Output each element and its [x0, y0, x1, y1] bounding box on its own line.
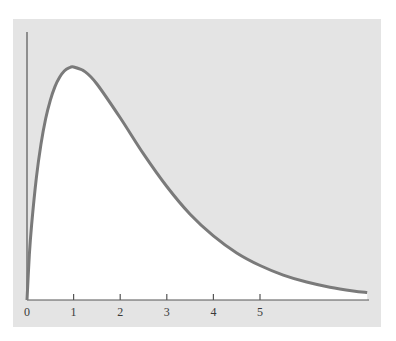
x-tick-label: 1 — [71, 305, 77, 319]
x-tick-label: 0 — [24, 305, 30, 319]
x-tick-label: 4 — [210, 305, 216, 319]
x-tick-label: 2 — [117, 305, 123, 319]
chart: 012345 — [0, 0, 396, 341]
x-tick-label: 3 — [164, 305, 170, 319]
x-tick-label: 5 — [257, 305, 263, 319]
